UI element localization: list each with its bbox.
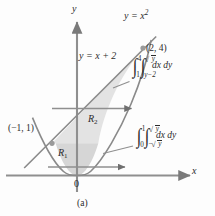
lower-inner-upper-limit: y — [150, 125, 160, 134]
upper-inner-integral: ∫ y y−2 — [140, 58, 146, 75]
upper-integral-expression: ∫ 4 1 ∫ y y−2 dx dy — [132, 58, 172, 75]
upper-inner-upper-limit: y — [146, 55, 156, 64]
origin-label: 0 — [74, 179, 79, 189]
lower-inner-integral: ∫ y −y — [144, 128, 150, 145]
point-minus1-1-dot — [49, 141, 54, 146]
line-equation-label: y = x + 2 — [79, 51, 116, 61]
lower-integral-expression: ∫ 1 0 ∫ y −y dx dy — [136, 128, 176, 145]
x-axis-label: x — [192, 166, 196, 176]
lower-inner-lower-radicand: y — [157, 140, 162, 149]
figure-caption: (a) — [77, 199, 88, 209]
region-R2-subscript: 2 — [94, 118, 98, 126]
figure-canvas — [0, 0, 215, 216]
point-2-4-dot — [140, 45, 145, 50]
parabola-equation-label: y = x2 — [124, 10, 148, 21]
parabola-equation-text: y = x — [124, 10, 145, 21]
upper-inner-upper-radicand: y — [151, 55, 156, 64]
region-R1-subscript: 1 — [64, 152, 68, 160]
upper-inner-lower-limit: y−2 — [144, 71, 156, 79]
upper-outer-integral: ∫ 4 1 — [132, 58, 138, 75]
y-axis-label: y — [72, 4, 76, 14]
point-minus1-1-label: (−1, 1) — [8, 124, 34, 134]
region-R1-label: R1 — [58, 148, 68, 160]
point-2-4-label: (2, 4) — [146, 44, 167, 54]
parabola-exponent: 2 — [145, 9, 149, 17]
region-R2-label: R2 — [88, 114, 98, 126]
lower-inner-upper-radicand: y — [155, 125, 160, 134]
integration-region-figure: y x 0 y = x2 y = x + 2 (2, 4) (−1, 1) R2… — [0, 0, 215, 216]
lower-inner-lower-limit: −y — [148, 140, 162, 149]
lower-outer-integral: ∫ 1 0 — [136, 128, 142, 145]
